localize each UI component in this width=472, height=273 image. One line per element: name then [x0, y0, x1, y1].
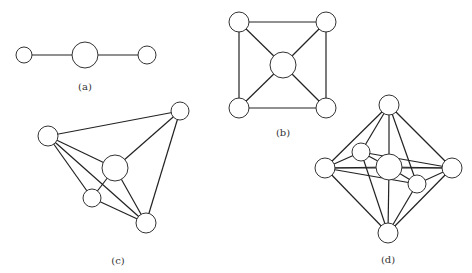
graph-node [352, 143, 370, 161]
figure-label-c: (c) [111, 255, 124, 266]
graph-node [136, 213, 156, 233]
graph-node [408, 175, 426, 193]
graph-node [379, 95, 399, 115]
figure-label-b: (b) [276, 127, 290, 138]
diagram-canvas [0, 0, 472, 273]
figure-d [315, 95, 462, 243]
figure-b [229, 12, 336, 118]
figure-label-d: (d) [381, 254, 395, 265]
graph-node [229, 12, 249, 32]
graph-node [229, 98, 249, 118]
graph-node [138, 46, 156, 64]
graph-node [442, 158, 462, 178]
graph-edge [48, 111, 180, 136]
graph-node [83, 189, 101, 207]
graph-node [316, 12, 336, 32]
figure-c [38, 102, 189, 233]
graph-node [316, 98, 336, 118]
figure-label-a: (a) [78, 81, 92, 92]
graph-node [38, 126, 58, 146]
graph-edge [146, 111, 180, 223]
figure-a [16, 42, 156, 68]
graph-edge [48, 136, 146, 223]
graph-node [315, 158, 335, 178]
graph-node [376, 154, 402, 180]
graph-node [102, 155, 128, 181]
graph-node [171, 102, 189, 120]
graph-node [270, 52, 296, 78]
graph-node [378, 223, 398, 243]
graph-edge [48, 136, 92, 198]
graph-node [72, 42, 98, 68]
graph-node [16, 47, 32, 63]
